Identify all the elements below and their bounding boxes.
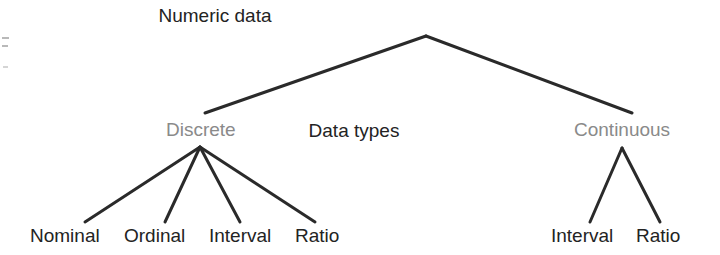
edge-root-to-continuous	[426, 36, 632, 113]
leaf-node-ordinal: Ordinal	[124, 226, 185, 245]
edge-discrete-to-ratio	[200, 147, 315, 222]
edge-root-to-discrete	[205, 36, 426, 113]
leaf-node-nominal: Nominal	[30, 226, 100, 245]
scan-artifact-mark	[2, 45, 8, 47]
leaf-node-ratio-continuous: Ratio	[636, 226, 680, 245]
root-node-label: Numeric data	[0, 6, 575, 25]
edge-discrete-to-interval	[200, 147, 240, 222]
edge-continuous-to-ratio	[622, 148, 660, 222]
scan-artifact-mark	[3, 66, 8, 68]
branch-node-continuous: Continuous	[574, 120, 670, 139]
leaf-node-ratio-discrete: Ratio	[295, 226, 339, 245]
leaf-node-interval-continuous: Interval	[551, 226, 613, 245]
data-types-tree-diagram: Numeric data Data types Discrete Continu…	[0, 0, 720, 255]
edge-continuous-to-interval	[590, 148, 622, 222]
branch-node-discrete: Discrete	[166, 120, 236, 139]
leaf-node-interval-discrete: Interval	[209, 226, 271, 245]
scan-artifact-mark	[2, 37, 9, 39]
